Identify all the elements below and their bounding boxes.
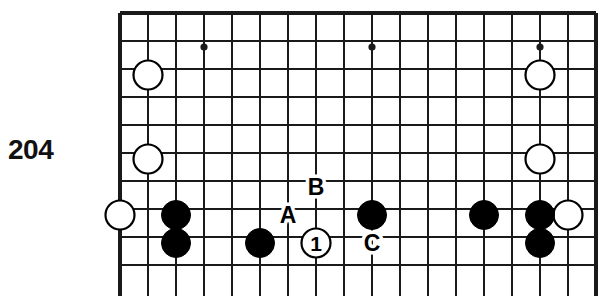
star-point <box>536 43 543 50</box>
white-stone-disc[interactable] <box>134 145 163 174</box>
white-stone[interactable] <box>526 145 555 174</box>
black-stone[interactable] <box>162 201 191 230</box>
black-stone[interactable] <box>470 201 499 230</box>
stone-move-number: 1 <box>310 232 322 255</box>
go-board-svg[interactable]: 1 AABBCC <box>0 0 614 296</box>
black-stone[interactable] <box>526 201 555 230</box>
white-stone-disc[interactable] <box>134 61 163 90</box>
point-label-b: B <box>308 174 325 200</box>
point-label-c: C <box>364 230 381 256</box>
white-stone[interactable] <box>134 145 163 174</box>
black-stone[interactable] <box>526 229 555 258</box>
white-stone[interactable]: 1 <box>302 229 331 258</box>
white-stone-disc[interactable] <box>526 61 555 90</box>
board-star-points <box>200 43 543 50</box>
black-stone-disc[interactable] <box>246 229 275 258</box>
black-stone[interactable] <box>162 229 191 258</box>
star-point <box>200 43 207 50</box>
white-stone[interactable] <box>554 201 583 230</box>
black-stone-disc[interactable] <box>526 229 555 258</box>
black-stone-disc[interactable] <box>162 229 191 258</box>
go-board[interactable]: 1 AABBCC <box>0 0 614 296</box>
board-gridlines <box>120 13 596 296</box>
white-stone-disc[interactable] <box>526 145 555 174</box>
black-stone-disc[interactable] <box>470 201 499 230</box>
star-point <box>368 43 375 50</box>
black-stone[interactable] <box>246 229 275 258</box>
black-stone-disc[interactable] <box>162 201 191 230</box>
black-stone-disc[interactable] <box>358 201 387 230</box>
black-stone[interactable] <box>358 201 387 230</box>
white-stone-disc[interactable] <box>554 201 583 230</box>
black-stone-disc[interactable] <box>526 201 555 230</box>
white-stone[interactable] <box>134 61 163 90</box>
white-stone[interactable] <box>106 201 135 230</box>
white-stone[interactable] <box>526 61 555 90</box>
point-label-a: A <box>280 202 297 228</box>
go-diagram-figure: 204 1 AABBCC <box>0 0 614 296</box>
white-stone-disc[interactable] <box>106 201 135 230</box>
